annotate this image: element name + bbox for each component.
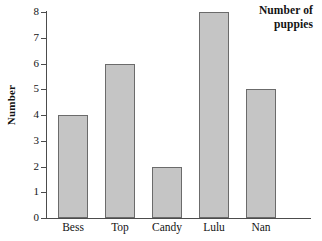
y-tick-label: 7 — [21, 32, 39, 43]
y-tick-label: 2 — [21, 161, 39, 172]
y-tick-label: 3 — [21, 135, 39, 146]
x-axis-line — [41, 218, 311, 219]
y-tick-label: 6 — [21, 58, 39, 69]
plot-area — [46, 12, 311, 218]
bar-bess — [58, 115, 88, 218]
y-tick-label: 8 — [21, 6, 39, 17]
x-category-label: Nan — [231, 221, 291, 233]
y-tick-label: 0 — [21, 212, 39, 223]
y-tick-label: 4 — [21, 109, 39, 120]
y-axis-label: Number — [5, 75, 17, 135]
bar-candy — [152, 167, 182, 219]
bar-lulu — [199, 12, 229, 218]
bar-chart: Number of puppies Number 012345678 BessT… — [0, 0, 322, 241]
y-tick-label: 1 — [21, 186, 39, 197]
bar-nan — [246, 89, 276, 218]
y-tick-label: 5 — [21, 83, 39, 94]
y-tick-mark — [41, 218, 46, 219]
bar-top — [105, 64, 135, 219]
